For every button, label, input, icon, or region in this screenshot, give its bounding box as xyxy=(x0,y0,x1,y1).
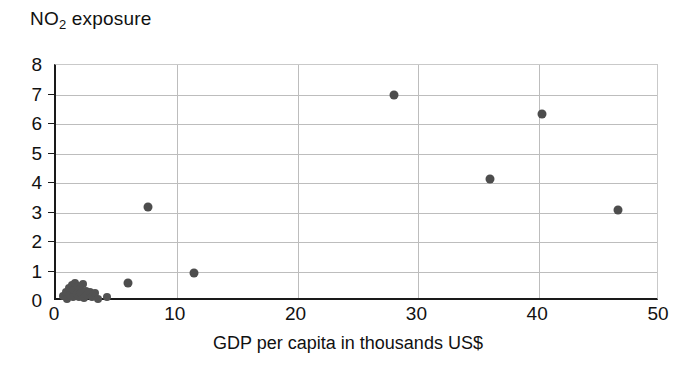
gridline-vertical xyxy=(298,65,299,298)
data-point xyxy=(613,205,622,214)
chart-title: NO2 exposure xyxy=(30,8,152,30)
y-tick-mark xyxy=(48,182,54,183)
title-subscript: 2 xyxy=(59,17,66,32)
y-tick-mark xyxy=(48,241,54,242)
data-point xyxy=(103,293,111,301)
data-point xyxy=(94,295,102,303)
gridline-horizontal xyxy=(56,272,657,273)
title-pre: NO xyxy=(30,8,59,29)
y-tick-mark xyxy=(48,123,54,124)
title-post: exposure xyxy=(66,8,151,29)
data-point xyxy=(189,268,198,277)
y-tick-label: 7 xyxy=(8,84,42,103)
data-point xyxy=(143,202,152,211)
gridline-vertical xyxy=(539,65,540,298)
plot-area xyxy=(54,64,658,300)
y-tick-label: 4 xyxy=(8,173,42,192)
y-tick-mark xyxy=(48,271,54,272)
y-tick-mark xyxy=(48,212,54,213)
x-tick-label: 0 xyxy=(49,304,60,323)
x-axis-label: GDP per capita in thousands US$ xyxy=(0,333,696,354)
y-tick-label: 0 xyxy=(8,291,42,310)
data-point xyxy=(390,90,399,99)
scatter-chart-figure: NO2 exposure 012345678 01020304050 GDP p… xyxy=(0,0,696,375)
y-tick-label: 6 xyxy=(8,114,42,133)
y-tick-mark xyxy=(48,153,54,154)
y-tick-label: 8 xyxy=(8,55,42,74)
gridline-horizontal xyxy=(56,124,657,125)
data-point xyxy=(537,109,546,118)
gridline-horizontal xyxy=(56,183,657,184)
gridline-horizontal xyxy=(56,95,657,96)
data-point xyxy=(485,174,494,183)
y-tick-mark xyxy=(48,94,54,95)
y-tick-label: 2 xyxy=(8,232,42,251)
gridline-vertical xyxy=(177,65,178,298)
data-point xyxy=(124,279,133,288)
gridline-horizontal xyxy=(56,154,657,155)
gridline-vertical xyxy=(418,65,419,298)
y-tick-label: 3 xyxy=(8,202,42,221)
y-tick-label: 1 xyxy=(8,261,42,280)
y-tick-label: 5 xyxy=(8,143,42,162)
gridline-horizontal xyxy=(56,242,657,243)
x-tick-label: 30 xyxy=(406,304,427,323)
x-tick-label: 10 xyxy=(164,304,185,323)
x-tick-label: 40 xyxy=(527,304,548,323)
gridline-horizontal xyxy=(56,213,657,214)
x-tick-label: 50 xyxy=(647,304,668,323)
x-tick-label: 20 xyxy=(285,304,306,323)
